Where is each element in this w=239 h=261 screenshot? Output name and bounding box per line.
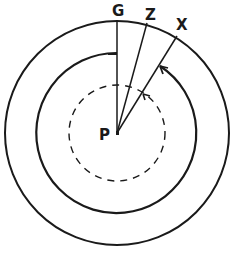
label-p: P xyxy=(99,126,110,144)
label-z: Z xyxy=(145,6,156,24)
center-point xyxy=(116,131,119,135)
label-g: G xyxy=(112,2,124,20)
diagram-canvas: P G Z X xyxy=(0,0,239,261)
label-x: X xyxy=(176,16,188,34)
line-z xyxy=(117,23,147,133)
line-x xyxy=(117,36,177,133)
